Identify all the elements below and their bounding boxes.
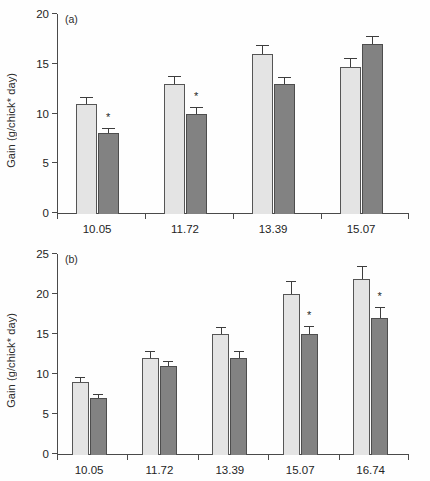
error-bar-cap	[75, 377, 85, 378]
bar-b-4-dark	[371, 318, 388, 455]
error-bar	[372, 37, 373, 44]
plot-area-a: (a) 05101520 10.0511.7213.3915.07 **	[57, 14, 409, 214]
bar-b-3-dark	[301, 334, 318, 455]
x-tick	[321, 214, 322, 219]
bar-b-1-dark	[160, 366, 177, 455]
chart-panel-a: Gain (g/chick* day) (a) 05101520 10.0511…	[0, 0, 430, 240]
x-tick-label: 11.72	[145, 464, 173, 476]
error-bar	[262, 46, 263, 54]
y-tick-label-b-5: 25	[36, 248, 49, 260]
error-bar-cap	[93, 394, 103, 395]
x-tick-label: 15.07	[286, 464, 315, 476]
bar-a-2-light	[252, 54, 273, 214]
bar-group: *	[268, 254, 338, 455]
significance-marker: *	[307, 312, 311, 318]
y-tick-label-b-3: 15	[36, 328, 49, 340]
y-tick-label-a-4: 20	[36, 8, 49, 20]
figure-bar-chart-gain: Gain (g/chick* day) (a) 05101520 10.0511…	[0, 0, 430, 481]
chart-panel-b: Gain (g/chick* day) (b) 0510152025 10.05…	[0, 240, 430, 481]
x-tick	[127, 455, 128, 460]
bar-b-4-light	[353, 279, 370, 455]
error-bar	[80, 378, 81, 382]
x-tick-label: 10.05	[75, 464, 104, 476]
error-bar-cap	[234, 351, 244, 352]
error-bar	[309, 327, 310, 334]
error-bar-cap	[216, 327, 226, 328]
error-bar	[350, 59, 351, 67]
error-bar-cap	[357, 266, 367, 267]
bar-b-0-light	[72, 382, 89, 455]
bar-a-3-light	[340, 67, 361, 214]
bar-group	[321, 14, 409, 214]
y-tick-label-a-1: 5	[43, 157, 49, 169]
y-axis-title-b: Gain (g/chick* day)	[0, 240, 22, 481]
error-bar-cap	[344, 58, 357, 59]
error-bar	[174, 77, 175, 84]
x-tick-label: 13.39	[215, 464, 244, 476]
error-bar	[98, 395, 99, 398]
bar-group	[127, 254, 197, 455]
error-bar-cap	[80, 97, 93, 98]
bar-group: *	[339, 254, 409, 455]
plot-area-b: (b) 0510152025 10.0511.7213.3915.0716.74…	[57, 254, 409, 455]
bar-a-0-dark	[98, 133, 119, 214]
error-bar-cap	[256, 45, 269, 46]
bar-b-1-light	[142, 358, 159, 455]
x-tick-label: 11.72	[171, 223, 199, 235]
error-bar	[284, 78, 285, 84]
bar-group: *	[145, 14, 233, 214]
bar-b-3-light	[283, 294, 300, 455]
bar-group	[233, 14, 321, 214]
y-axis-title-a: Gain (g/chick* day)	[0, 0, 22, 240]
error-bar-cap	[163, 361, 173, 362]
error-bar-cap	[286, 281, 296, 282]
error-bar-cap	[190, 107, 203, 108]
error-bar	[150, 352, 151, 358]
error-bar	[380, 308, 381, 318]
x-tick	[408, 455, 409, 460]
bar-b-2-dark	[230, 358, 247, 455]
bar-a-1-light	[164, 84, 185, 214]
x-tick	[145, 214, 146, 219]
bar-group: *	[57, 14, 145, 214]
error-bar	[168, 362, 169, 366]
error-bar	[239, 352, 240, 358]
y-tick-label-b-0: 0	[43, 448, 49, 460]
x-tick-label: 10.05	[83, 223, 112, 235]
x-tick	[233, 214, 234, 219]
y-tick-label-b-2: 10	[36, 368, 49, 380]
error-bar	[221, 328, 222, 334]
x-tick-label: 15.07	[347, 223, 376, 235]
error-bar-cap	[366, 36, 379, 37]
error-bar	[196, 108, 197, 114]
y-tick-label-b-4: 20	[36, 288, 49, 300]
y-tick-label-a-2: 10	[36, 108, 49, 120]
y-tick-label-a-3: 15	[36, 58, 49, 70]
x-tick	[268, 455, 269, 460]
error-bar-cap	[375, 307, 385, 308]
bar-a-3-dark	[362, 44, 383, 214]
x-tick	[198, 455, 199, 460]
error-bar-cap	[278, 77, 291, 78]
bar-a-0-light	[76, 104, 97, 214]
error-bar-cap	[168, 76, 181, 77]
x-tick	[339, 455, 340, 460]
significance-marker: *	[377, 293, 381, 299]
x-tick-label: 16.74	[356, 464, 385, 476]
error-bar	[362, 267, 363, 279]
error-bar	[108, 129, 109, 133]
x-tick	[57, 214, 58, 219]
bar-a-2-dark	[274, 84, 295, 214]
error-bar-cap	[102, 128, 115, 129]
y-tick-label-a-0: 0	[43, 207, 49, 219]
x-tick	[57, 455, 58, 460]
bar-group	[57, 254, 127, 455]
x-tick	[408, 214, 409, 219]
x-tick-label: 13.39	[259, 223, 288, 235]
significance-marker: *	[106, 114, 110, 120]
significance-marker: *	[194, 93, 198, 99]
bar-b-0-dark	[90, 398, 107, 455]
error-bar-cap	[304, 326, 314, 327]
bar-group	[198, 254, 268, 455]
y-tick-label-b-1: 5	[43, 408, 49, 420]
